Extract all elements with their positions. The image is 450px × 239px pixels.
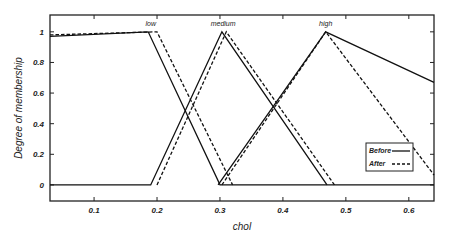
set-label: low [145,20,156,27]
y-tick-label: 0.2 [33,150,45,159]
x-tick-label: 0.6 [403,206,415,215]
y-tick-label: 0.4 [33,120,45,129]
y-tick-label: 1 [40,28,45,37]
x-tick-label: 0.1 [89,206,101,215]
y-tick-label: 0 [40,181,45,190]
set-labels: lowmediumhigh [145,20,332,28]
x-tick-label: 0.4 [277,206,289,215]
y-tick-label: 0.6 [33,89,45,98]
x-tick-label: 0.5 [340,206,352,215]
membership-chart: 0.10.20.30.40.50.6 00.20.40.60.81 lowmed… [0,0,450,239]
plot-frame [50,15,434,201]
plot-border [50,15,434,201]
series-line [50,32,327,185]
x-tick-label: 0.3 [214,206,226,215]
y-axis-title: Degree of membership [13,57,24,159]
set-label: high [319,20,332,28]
legend-label-before: Before [369,147,391,154]
set-label: medium [211,20,236,27]
x-axis-title: chol [233,221,252,232]
series-line [50,32,233,185]
legend-label-after: After [368,160,387,167]
x-tick-label: 0.2 [151,206,163,215]
y-tick-label: 0.8 [33,58,45,67]
legend: Before After [366,143,413,171]
